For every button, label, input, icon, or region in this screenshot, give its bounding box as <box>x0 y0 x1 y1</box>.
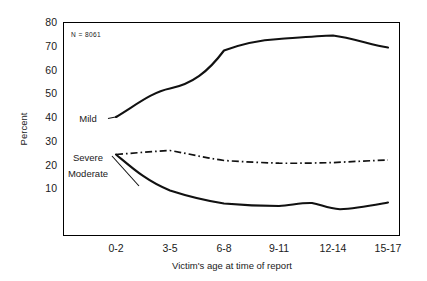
y-tick-40: 40 <box>45 111 57 123</box>
line-chart-figure: 80 70 60 50 40 30 20 10 Percent 0-2 3-5 … <box>0 0 427 281</box>
series-label-severe: Severe <box>73 152 103 163</box>
series-line-mild <box>116 36 388 118</box>
series-label-moderate: Moderate <box>68 168 108 179</box>
y-tick-10: 10 <box>45 182 57 194</box>
y-tick-20: 20 <box>45 159 57 171</box>
x-tick-9-11: 9-11 <box>269 242 289 254</box>
x-tick-3-5: 3-5 <box>162 242 177 254</box>
x-tick-12-14: 12-14 <box>320 242 347 254</box>
y-tick-80: 80 <box>45 16 57 28</box>
series-line-moderate <box>116 151 388 164</box>
y-tick-70: 70 <box>45 40 57 52</box>
sample-size-annotation: N = 8061 <box>71 31 101 38</box>
y-axis-title: Percent <box>18 112 29 145</box>
x-tick-0-2: 0-2 <box>108 242 123 254</box>
x-axis-title: Victim's age at time of report <box>172 260 292 271</box>
series-label-mild: Mild <box>79 113 96 124</box>
y-tick-50: 50 <box>45 87 57 99</box>
x-tick-6-8: 6-8 <box>216 242 231 254</box>
y-tick-60: 60 <box>45 64 57 76</box>
y-tick-30: 30 <box>45 135 57 147</box>
x-tick-15-17: 15-17 <box>375 242 402 254</box>
